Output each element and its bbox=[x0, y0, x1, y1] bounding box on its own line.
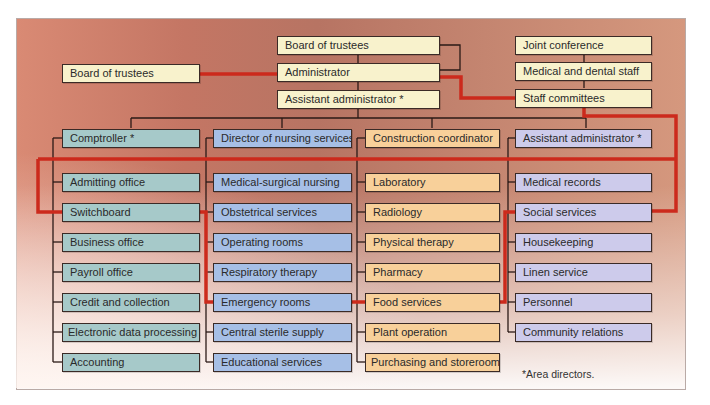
unit-box: Purchasing and storeroom bbox=[365, 353, 500, 372]
unit-box: Housekeeping bbox=[515, 233, 652, 252]
unit-box: Admitting office bbox=[62, 173, 200, 192]
administrator-box: Administrator bbox=[277, 63, 440, 82]
assistant-administrator-box: Assistant administrator * bbox=[277, 90, 440, 109]
unit-box: Medical records bbox=[515, 173, 652, 192]
joint-conference-box: Joint conference bbox=[515, 36, 652, 55]
unit-box: Electronic data processing bbox=[62, 323, 200, 342]
unit-box: Switchboard bbox=[62, 203, 200, 222]
medical-dental-staff-box: Medical and dental staff bbox=[515, 62, 652, 81]
unit-box: Operating rooms bbox=[213, 233, 352, 252]
unit-box: Plant operation bbox=[365, 323, 500, 342]
unit-box: Social services bbox=[515, 203, 652, 222]
unit-box: Respiratory therapy bbox=[213, 263, 352, 282]
unit-box: Obstetrical services bbox=[213, 203, 352, 222]
unit-box: Pharmacy bbox=[365, 263, 500, 282]
dept-head-nursing: Director of nursing services bbox=[213, 129, 352, 148]
unit-box: Physical therapy bbox=[365, 233, 500, 252]
unit-box: Central sterile supply bbox=[213, 323, 352, 342]
unit-box: Emergency rooms bbox=[213, 293, 352, 312]
dept-head-comptroller: Comptroller * bbox=[62, 129, 200, 148]
unit-box: Accounting bbox=[62, 353, 200, 372]
footnote: *Area directors. bbox=[522, 368, 594, 380]
unit-box: Food services bbox=[365, 293, 500, 312]
unit-box: Radiology bbox=[365, 203, 500, 222]
unit-box: Laboratory bbox=[365, 173, 500, 192]
board-of-trustees-box: Board of trustees bbox=[277, 36, 440, 55]
unit-box: Educational services bbox=[213, 353, 352, 372]
unit-box: Community relations bbox=[515, 323, 652, 342]
unit-box: Linen service bbox=[515, 263, 652, 282]
unit-box: Credit and collection bbox=[62, 293, 200, 312]
dept-head-construction: Construction coordinator bbox=[365, 129, 500, 148]
staff-committees-box: Staff committees bbox=[515, 89, 652, 108]
unit-box: Medical-surgical nursing bbox=[213, 173, 352, 192]
unit-box: Payroll office bbox=[62, 263, 200, 282]
unit-box: Business office bbox=[62, 233, 200, 252]
external-board-of-trustees-box: Board of trustees bbox=[62, 64, 200, 83]
unit-box: Personnel bbox=[515, 293, 652, 312]
dept-head-assistant-admin: Assistant administrator * bbox=[515, 129, 652, 148]
